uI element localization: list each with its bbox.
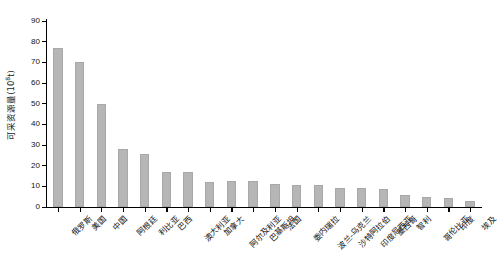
bar [205,182,214,207]
x-axis-tick-mark [80,208,81,212]
bar [357,188,366,207]
bar [444,198,453,207]
x-axis-tick-label: 委内瑞拉 [310,213,340,243]
x-axis-tick-mark [101,208,102,212]
bar [379,189,388,207]
y-axis-tick-mark [42,103,46,104]
y-axis-tick-mark [42,41,46,42]
y-axis-tick-mark [42,83,46,84]
bar [162,172,171,207]
bar-series [47,21,481,207]
y-axis-tick-label: 70 [0,58,40,66]
x-axis-tick-label: 加拿大 [221,213,246,238]
x-axis-tick-mark [297,208,298,212]
x-axis-tick-mark [405,208,406,212]
x-axis-tick-label: 智利 [414,213,433,232]
y-axis-tick-mark [42,207,46,208]
x-axis-tick-mark [318,208,319,212]
bar [400,195,409,207]
x-axis-tick-mark [448,208,449,212]
x-axis-tick-label: 巴西 [175,213,194,232]
bar [292,185,301,207]
y-axis-tick-label: 20 [0,161,40,169]
bar [140,154,149,207]
x-axis-tick-mark [58,208,59,212]
y-axis-title-main: 可采资源量(10 [6,81,16,140]
x-axis-tick-label: 波兰-乌克兰 [335,213,373,251]
x-axis-tick-label: 墨西哥 [394,213,419,238]
bar [270,184,279,207]
y-axis-tick-mark [42,145,46,146]
bar [465,201,474,207]
y-axis-tick-mark [42,186,46,187]
x-axis-tick-mark [253,208,254,212]
x-axis-tick-label: 沙特阿拉伯 [356,213,392,249]
bar [248,181,257,207]
x-axis-tick-label: 哥伦比亚 [440,213,470,243]
y-axis-tick-mark [42,165,46,166]
bar [227,181,236,207]
bar [335,188,344,207]
y-axis-tick-mark [42,62,46,63]
y-axis-tick-label: 10 [0,182,40,190]
y-axis-title-tail: t) [6,70,16,77]
y-axis-tick-label: 50 [0,99,40,107]
y-axis-tick-label: 40 [0,120,40,128]
x-axis-tick-label: 巴基斯坦 [267,213,297,243]
y-axis-tick-label: 0 [0,203,40,211]
x-axis-tick-mark [166,208,167,212]
x-axis-tick-mark [188,208,189,212]
bar [97,104,106,207]
x-axis-tick-mark [383,208,384,212]
bar [75,62,84,207]
x-axis-tick-label: 阿根廷 [134,213,159,238]
x-axis-tick-label: 中国 [110,213,129,232]
y-axis-tick-mark [42,21,46,22]
x-axis-tick-mark [275,208,276,212]
plot-area [47,21,481,207]
x-axis-tick-label: 法国 [284,213,303,232]
x-axis-tick-label: 利比亚 [156,213,181,238]
y-axis-tick-label: 30 [0,141,40,149]
x-axis-tick-label: 美国 [88,213,107,232]
y-axis-tick-label: 80 [0,37,40,45]
x-axis-tick-mark [123,208,124,212]
x-axis-tick-mark [427,208,428,212]
bar [53,48,62,207]
x-axis-tick-mark [145,208,146,212]
bar [422,197,431,207]
x-axis-tick-label: 澳大利亚 [201,213,231,243]
x-axis-tick-mark [470,208,471,212]
x-axis-tick-mark [362,208,363,212]
y-axis-tick-label: 90 [0,17,40,25]
y-axis-tick-label: 60 [0,79,40,87]
x-axis-tick-label: 阿尔及利亚 [247,213,283,249]
x-axis-tick-label: 印度 [457,213,476,232]
x-axis-tick-mark [340,208,341,212]
x-axis-tick-label: 俄罗斯 [69,213,94,238]
x-axis-tick-label: 印度尼西亚 [377,213,413,249]
bar [118,149,127,207]
bar [314,185,323,207]
x-axis-tick-label: 埃及 [479,213,498,232]
x-axis-tick-mark [210,208,211,212]
bar [183,172,192,207]
x-axis-tick-mark [231,208,232,212]
y-axis-tick-mark [42,124,46,125]
